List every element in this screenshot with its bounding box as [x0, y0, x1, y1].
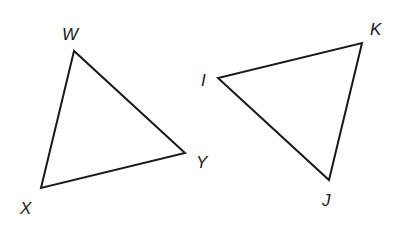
- vertex-label-w: W: [62, 25, 80, 44]
- triangle-diagram: W X Y I J K: [0, 0, 406, 228]
- vertex-label-j: J: [321, 191, 331, 210]
- vertex-label-y: Y: [196, 153, 209, 172]
- vertex-label-x: X: [19, 199, 32, 218]
- vertex-label-i: I: [201, 71, 206, 90]
- vertex-label-k: K: [370, 20, 382, 39]
- triangle-wxy: [41, 51, 185, 188]
- triangle-ijk: [218, 43, 362, 180]
